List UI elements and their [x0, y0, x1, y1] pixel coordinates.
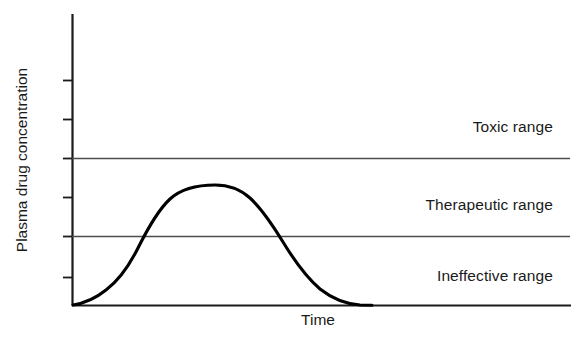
x-axis-title: Time [0, 311, 576, 329]
ineffective-range-label: Ineffective range [437, 267, 553, 285]
y-axis-title: Plasma drug concentration [13, 20, 31, 300]
therapeutic-range-label: Therapeutic range [425, 196, 553, 214]
y-axis-ticks [63, 81, 72, 278]
chart-plot-area [0, 0, 576, 342]
y-axis-title-container: Plasma drug concentration [0, 0, 45, 342]
chart-figure: Toxic range Therapeutic range Ineffectiv… [0, 0, 576, 342]
plasma-concentration-curve [73, 185, 372, 305]
toxic-range-label: Toxic range [473, 118, 553, 136]
